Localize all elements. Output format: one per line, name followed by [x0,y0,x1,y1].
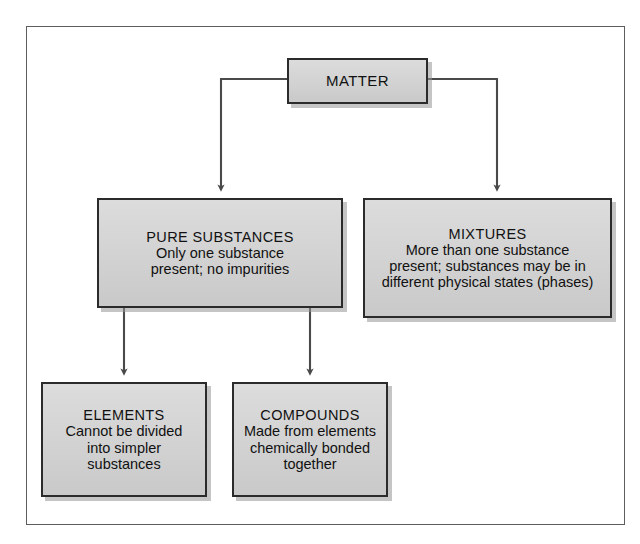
node-elements-title: ELEMENTS [47,407,201,423]
node-compounds-title: COMPOUNDS [238,407,382,423]
node-compounds-line1: Made from elements [238,423,382,439]
node-pure-substances-content: PURE SUBSTANCES Only one substance prese… [103,229,337,278]
node-matter[interactable]: MATTER [287,58,428,104]
node-mixtures-line3: different physical states (phases) [369,274,606,290]
node-matter-title: MATTER [293,73,422,90]
node-pure-substances-title: PURE SUBSTANCES [103,229,337,245]
node-mixtures[interactable]: MIXTURES More than one substance present… [363,198,612,318]
node-mixtures-line1: More than one substance [369,242,606,258]
node-elements-line1: Cannot be divided [47,423,201,439]
node-compounds[interactable]: COMPOUNDS Made from elements chemically … [232,382,388,497]
node-elements-line2: into simpler [47,440,201,456]
node-compounds-line3: together [238,456,382,472]
node-pure-substances-line1: Only one substance [103,245,337,261]
node-pure-substances[interactable]: PURE SUBSTANCES Only one substance prese… [97,198,343,308]
node-compounds-line2: chemically bonded [238,440,382,456]
node-elements-content: ELEMENTS Cannot be divided into simpler … [47,407,201,472]
node-mixtures-line2: present; substances may be in [369,258,606,274]
diagram-canvas: MATTER PURE SUBSTANCES Only one substanc… [0,0,640,544]
node-compounds-content: COMPOUNDS Made from elements chemically … [238,407,382,472]
node-matter-content: MATTER [293,73,422,90]
node-pure-substances-line2: present; no impurities [103,261,337,277]
node-elements-line3: substances [47,456,201,472]
node-elements[interactable]: ELEMENTS Cannot be divided into simpler … [41,382,207,497]
node-mixtures-content: MIXTURES More than one substance present… [369,226,606,291]
node-mixtures-title: MIXTURES [369,226,606,242]
